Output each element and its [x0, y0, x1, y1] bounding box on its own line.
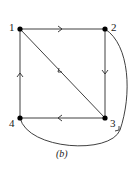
node-1	[17, 26, 22, 31]
node-3	[102, 115, 107, 120]
figure-caption: (b)	[56, 148, 68, 159]
edge-3-1	[20, 29, 105, 118]
node-4	[17, 115, 22, 120]
node-3-label: 3	[110, 117, 116, 129]
node-2-label: 2	[111, 21, 117, 33]
node-1-label: 1	[9, 21, 15, 33]
node-2	[102, 26, 107, 31]
node-4-label: 4	[9, 117, 15, 129]
